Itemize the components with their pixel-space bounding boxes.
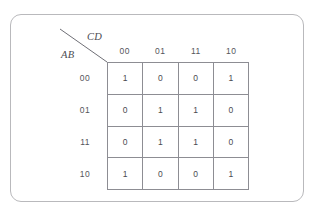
kmap-cell: 1 <box>108 158 143 190</box>
kmap-grid: 1 0 0 1 0 1 1 0 0 1 1 0 1 0 0 1 <box>107 62 249 190</box>
column-header-row: 00 01 11 10 <box>107 43 249 59</box>
column-header: 11 <box>178 43 214 59</box>
kmap-cell: 0 <box>143 158 178 190</box>
row-header-column: 00 01 11 10 <box>67 62 103 190</box>
kmap-cell: 1 <box>143 127 178 159</box>
column-header: 10 <box>214 43 250 59</box>
kmap-row: 0 1 1 0 <box>108 95 249 127</box>
kmap-cell: 0 <box>108 127 143 159</box>
row-header: 11 <box>67 126 103 158</box>
kmap-cell: 0 <box>108 95 143 127</box>
kmap-cell: 1 <box>179 95 214 127</box>
kmap-row: 1 0 0 1 <box>108 63 249 95</box>
kmap-cell: 0 <box>179 158 214 190</box>
row-header: 00 <box>67 62 103 94</box>
row-variable-label: AB <box>61 49 74 60</box>
kmap-cell: 1 <box>179 127 214 159</box>
kmap-row: 1 0 0 1 <box>108 158 249 190</box>
column-header: 01 <box>143 43 179 59</box>
kmap-cell: 0 <box>143 63 178 95</box>
kmap-cell: 0 <box>214 127 249 159</box>
kmap-row: 0 1 1 0 <box>108 127 249 159</box>
kmap-cell: 1 <box>143 95 178 127</box>
karnaugh-map: CD AB 00 01 11 10 00 01 11 10 1 0 0 1 0 … <box>0 0 316 216</box>
row-header: 01 <box>67 94 103 126</box>
row-header: 10 <box>67 158 103 190</box>
figure-root: CD AB 00 01 11 10 00 01 11 10 1 0 0 1 0 … <box>0 0 316 216</box>
kmap-cell: 1 <box>108 63 143 95</box>
kmap-cell: 1 <box>214 158 249 190</box>
column-header: 00 <box>107 43 143 59</box>
kmap-cell: 1 <box>214 63 249 95</box>
column-variable-label: CD <box>87 31 102 42</box>
kmap-cell: 0 <box>179 63 214 95</box>
kmap-cell: 0 <box>214 95 249 127</box>
